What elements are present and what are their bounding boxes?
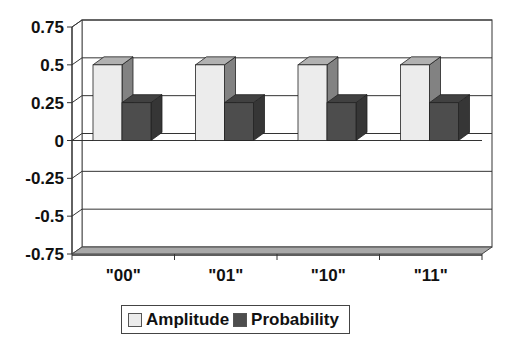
x-category-label: "10" xyxy=(311,266,346,285)
bar-probability xyxy=(122,95,162,141)
y-tick-label: -0.5 xyxy=(35,207,64,226)
legend-swatch-icon xyxy=(128,313,142,327)
y-tick-label: -0.25 xyxy=(25,169,64,188)
bar-probability xyxy=(430,95,470,141)
y-tick-label: 0.5 xyxy=(40,56,64,75)
x-category-label: "11" xyxy=(414,266,448,285)
bar-chart: 0.750.50.250-0.25-0.5-0.75 "00""01""10""… xyxy=(0,0,511,300)
legend-item-probability: Probability xyxy=(233,310,339,330)
y-tick-label: 0.75 xyxy=(31,18,64,37)
legend-label: Amplitude xyxy=(146,310,229,330)
bar-probability xyxy=(327,95,367,141)
y-axis: 0.750.50.250-0.25-0.5-0.75 xyxy=(25,18,72,264)
y-tick-label: 0 xyxy=(55,132,64,151)
x-axis: "00""01""10""11" xyxy=(72,254,482,285)
y-tick-label: -0.75 xyxy=(25,245,64,264)
legend-item-amplitude: Amplitude xyxy=(128,310,229,330)
legend: Amplitude Probability xyxy=(121,305,350,334)
y-tick-label: 0.25 xyxy=(31,94,64,113)
x-category-label: "01" xyxy=(208,266,243,285)
legend-label: Probability xyxy=(251,310,339,330)
legend-swatch-icon xyxy=(233,313,247,327)
bar-probability xyxy=(225,95,265,141)
x-category-label: "00" xyxy=(106,266,141,285)
